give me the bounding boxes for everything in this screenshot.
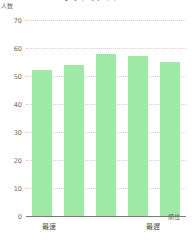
x-axis-unit-label: 順位 <box>168 213 180 220</box>
bar <box>160 62 180 216</box>
bar <box>96 54 116 216</box>
axis-baseline: 0 <box>26 216 186 217</box>
bar <box>32 70 52 216</box>
y-axis-tick-label: 0 <box>18 214 22 221</box>
y-axis-tick-label: 60 <box>14 46 22 53</box>
bar-series <box>26 20 186 216</box>
y-axis-tick-label: 40 <box>14 102 22 109</box>
x-axis-label-fastest: 最速 <box>27 223 71 232</box>
y-axis-tick-label: 30 <box>14 130 22 137</box>
bar-chart: グラフのタイトル 人数 010203040506070 最速 最遅 順位 <box>0 0 192 244</box>
y-axis-tick-label: 20 <box>14 158 22 165</box>
y-axis-unit-label: 人数 <box>1 2 13 9</box>
plot-area: 010203040506070 <box>26 20 186 216</box>
x-axis-label-slowest: 最遅 <box>131 223 175 232</box>
y-axis-tick-label: 70 <box>14 18 22 25</box>
bar <box>64 65 84 216</box>
bar <box>128 56 148 216</box>
y-axis-tick-label: 50 <box>14 74 22 81</box>
chart-title: グラフのタイトル <box>0 0 192 2</box>
y-axis-tick-label: 10 <box>14 186 22 193</box>
